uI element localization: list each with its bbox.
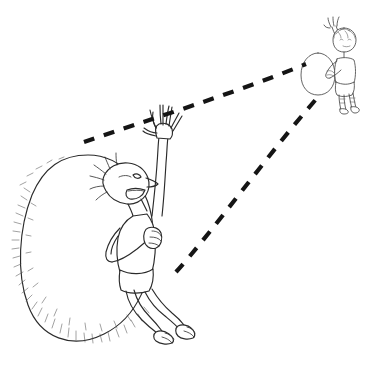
- near-figure-grip-hand: [144, 227, 162, 248]
- perspective-scene-drawing: Perspective sketch: near figure with lar…: [0, 0, 376, 366]
- far-figure-torso: [335, 58, 356, 86]
- far-figure-shorts: [335, 82, 354, 97]
- small-egg-outline: [301, 53, 335, 95]
- small-egg-group: [301, 53, 335, 95]
- illustration-root: Perspective sketch: near figure with lar…: [0, 0, 376, 366]
- near-figure-palm: [156, 123, 173, 139]
